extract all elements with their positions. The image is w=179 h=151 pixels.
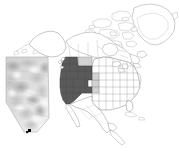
region-united-states [92, 57, 141, 112]
state-MT [77, 57, 92, 66]
alberta-raster-inset [4, 56, 51, 134]
site-point-marker-secondary [26, 131, 28, 133]
region-alaska [14, 31, 66, 57]
site-point-marker [28, 129, 31, 132]
map-figure [0, 0, 179, 151]
state-NE [92, 73, 99, 80]
state-KS [92, 80, 99, 87]
region-greenland [132, 4, 178, 45]
inset-raster-surface [4, 56, 51, 134]
